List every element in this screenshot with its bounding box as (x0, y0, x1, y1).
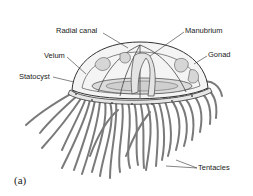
panel-label: (a) (14, 175, 26, 186)
label-velum: Velum (44, 52, 65, 60)
label-radial-canal: Radial canal (56, 27, 97, 35)
label-statocyst: Statocyst (19, 73, 50, 81)
label-tentacles: Tentacles (198, 164, 230, 172)
jellyfish-diagram: Radial canal Manubrium Velum Gonad Stato… (0, 0, 253, 196)
label-gonad: Gonad (208, 51, 231, 59)
label-manubrium: Manubrium (185, 27, 223, 35)
